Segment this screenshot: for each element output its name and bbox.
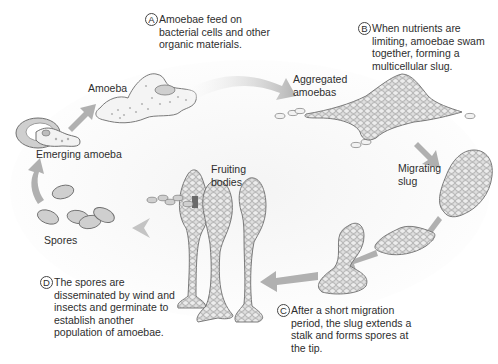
note-b-letter: B xyxy=(358,22,371,35)
life-cycle-diagram: Amoeba Aggregated amoebas Migrating slug… xyxy=(0,0,498,364)
note-a-letter: A xyxy=(145,13,158,26)
label-amoeba: Amoeba xyxy=(88,82,127,95)
note-a: A Amoebae feed on bacterial cells and ot… xyxy=(145,13,270,51)
note-d: D The spores are disseminated by wind an… xyxy=(40,276,175,339)
label-fruiting-bodies: Fruiting bodies xyxy=(211,163,246,188)
note-b: B When nutrients are limiting, amoebae s… xyxy=(358,22,485,72)
label-aggregated-amoebas: Aggregated amoebas xyxy=(293,73,347,98)
note-c-letter: C xyxy=(277,304,290,317)
note-d-letter: D xyxy=(40,276,53,289)
label-emerging-amoeba: Emerging amoeba xyxy=(36,148,122,161)
label-migrating-slug: Migrating slug xyxy=(398,162,441,187)
label-spores: Spores xyxy=(44,234,77,247)
note-c: C After a short migration period, the sl… xyxy=(277,304,411,354)
